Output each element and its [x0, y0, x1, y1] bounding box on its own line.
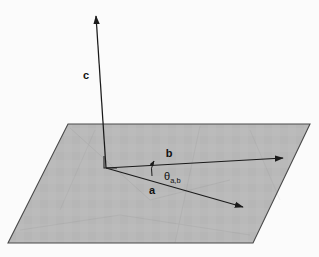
angle-subscript: a,b: [170, 176, 180, 185]
vector-a-label: a: [149, 184, 156, 196]
vector-b-label: b: [166, 147, 173, 159]
vector-diagram-figure: c b a θa,b: [0, 0, 319, 257]
vector-c-label: c: [83, 69, 89, 81]
diagram-canvas: c b a θa,b: [0, 0, 319, 257]
